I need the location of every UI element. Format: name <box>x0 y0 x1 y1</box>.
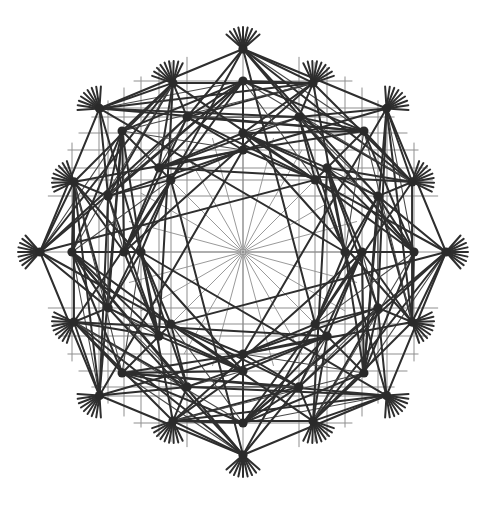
graph-vertex <box>238 418 247 427</box>
graph-vertex <box>154 332 163 341</box>
graph-vertex <box>117 126 126 135</box>
graph-vertex <box>294 382 303 391</box>
graph-vertex <box>373 303 382 312</box>
graph-vertex <box>136 247 145 256</box>
graph-vertex <box>183 382 192 391</box>
graph-vertex <box>35 247 44 256</box>
figure-root <box>0 0 489 510</box>
graph-vertex <box>373 192 382 201</box>
graph-vertex <box>69 317 78 326</box>
graph-vertex <box>95 391 104 400</box>
graph-vertex <box>119 247 128 256</box>
graph-vertex <box>238 145 247 154</box>
graph-vertex <box>359 368 368 377</box>
symmetric-graph-diagram <box>0 0 489 510</box>
graph-vertex <box>67 247 76 256</box>
graph-vertex <box>382 104 391 113</box>
graph-vertex <box>69 177 78 186</box>
graph-vertex <box>407 177 416 186</box>
graph-vertex <box>104 303 113 312</box>
graph-vertex <box>294 113 303 122</box>
graph-vertex <box>308 78 317 87</box>
graph-vertex <box>238 76 247 85</box>
graph-vertex <box>166 175 175 184</box>
graph-vertex <box>323 332 332 341</box>
graph-vertex <box>154 163 163 172</box>
graph-vertex <box>311 175 320 184</box>
graph-vertex <box>104 192 113 201</box>
graph-vertex <box>95 104 104 113</box>
graph-vertex <box>409 247 418 256</box>
graph-vertex <box>238 349 247 358</box>
graph-vertex <box>311 320 320 329</box>
graph-vertex <box>359 126 368 135</box>
graph-vertex <box>357 247 366 256</box>
graph-vertex <box>238 366 247 375</box>
graph-vertex <box>441 247 450 256</box>
graph-vertex <box>168 78 177 87</box>
graph-vertex <box>168 416 177 425</box>
graph-vertex <box>323 163 332 172</box>
graph-vertex <box>238 44 247 53</box>
graph-vertex <box>166 320 175 329</box>
graph-vertex <box>238 128 247 137</box>
graph-vertex <box>382 391 391 400</box>
graph-vertex <box>308 416 317 425</box>
graph-vertex <box>117 368 126 377</box>
graph-vertex <box>340 247 349 256</box>
graph-vertex <box>407 317 416 326</box>
graph-vertex <box>183 113 192 122</box>
graph-vertex <box>238 450 247 459</box>
